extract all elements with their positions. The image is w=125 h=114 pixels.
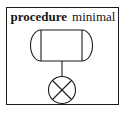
rounded-box-node [31,30,93,61]
procedure-diagram [0,0,125,114]
figure-canvas: procedureminimal [0,0,125,114]
